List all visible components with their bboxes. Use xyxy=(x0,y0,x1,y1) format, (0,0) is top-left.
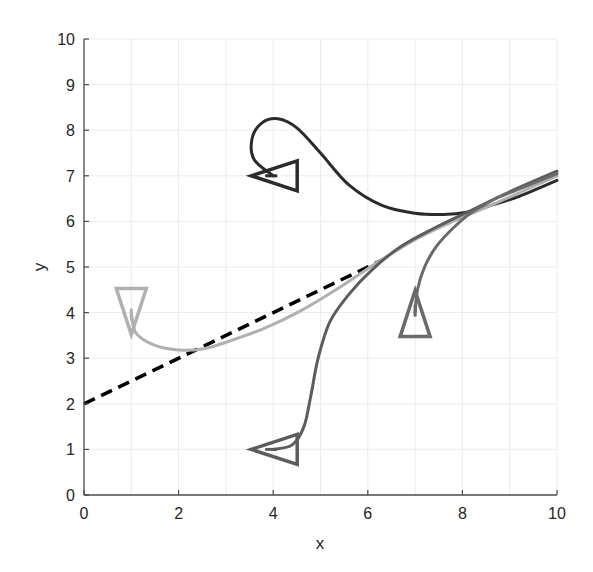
x-tick-label: 6 xyxy=(363,505,372,522)
x-tick-label: 0 xyxy=(80,505,89,522)
y-tick-label: 0 xyxy=(66,487,75,504)
x-tick-label: 10 xyxy=(548,505,566,522)
y-tick-label: 5 xyxy=(66,259,75,276)
y-tick-label: 7 xyxy=(66,168,75,185)
x-tick-label: 8 xyxy=(458,505,467,522)
x-tick-label: 4 xyxy=(269,505,278,522)
x-tick-label: 2 xyxy=(174,505,183,522)
y-tick-label: 1 xyxy=(66,441,75,458)
y-tick-label: 2 xyxy=(66,396,75,413)
trajectory-chart: 0246810012345678910 x y xyxy=(0,0,593,572)
y-tick-label: 3 xyxy=(66,350,75,367)
y-tick-label: 8 xyxy=(66,122,75,139)
y-tick-label: 10 xyxy=(57,31,75,48)
y-tick-label: 4 xyxy=(66,305,75,322)
x-axis-label: x xyxy=(316,534,325,553)
y-axis-label: y xyxy=(30,262,49,271)
y-tick-label: 9 xyxy=(66,77,75,94)
y-tick-label: 6 xyxy=(66,213,75,230)
